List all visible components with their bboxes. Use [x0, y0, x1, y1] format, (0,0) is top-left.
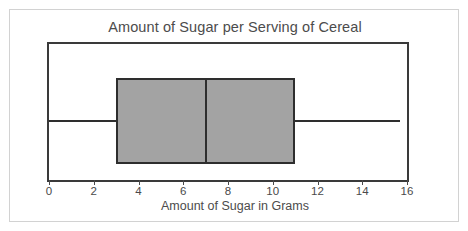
- x-tick-label: 14: [349, 185, 375, 197]
- x-axis-label: Amount of Sugar in Grams: [10, 199, 460, 213]
- figure-card: Amount of Sugar per Serving of Cereal 02…: [9, 9, 459, 222]
- x-tick-label: 8: [215, 185, 241, 197]
- right-whisker: [295, 120, 400, 122]
- chart-title: Amount of Sugar per Serving of Cereal: [10, 19, 460, 35]
- x-tick-label: 6: [170, 185, 196, 197]
- plot-frame: [47, 42, 409, 182]
- median-line: [205, 78, 207, 164]
- x-tick-label: 2: [81, 185, 107, 197]
- x-tick-label: 4: [126, 185, 152, 197]
- left-whisker: [49, 120, 116, 122]
- x-tick-label: 12: [305, 185, 331, 197]
- x-tick-label: 10: [260, 185, 286, 197]
- x-tick-label: 0: [36, 185, 62, 197]
- x-tick-label: 16: [394, 185, 420, 197]
- plot-area: [49, 44, 407, 180]
